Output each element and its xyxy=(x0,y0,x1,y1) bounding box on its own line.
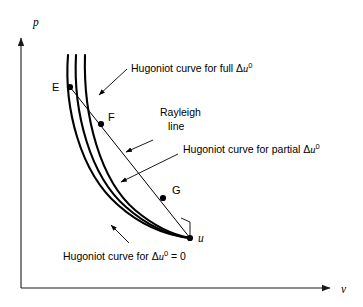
annotation-rayleigh-line1: Rayleigh xyxy=(160,106,201,118)
annotation-partial-text: Hugoniot curve for partial xyxy=(183,143,303,155)
annotation-zero-delta: Δ xyxy=(152,250,159,262)
point-label-u: u xyxy=(198,232,204,244)
annotation-zero: Hugoniot curve for Δu0 = 0 xyxy=(63,249,186,263)
leader-line-rayleigh xyxy=(126,140,153,152)
point-label-E: E xyxy=(52,81,59,93)
leader-line-full xyxy=(99,69,127,95)
annotation-partial-sup: 0 xyxy=(316,142,320,151)
annotation-full-delta: Δ xyxy=(236,62,243,74)
leader-line-partial xyxy=(121,154,178,182)
point-marker-u xyxy=(187,235,193,241)
leader-line-zero xyxy=(111,225,129,243)
point-marker-F xyxy=(98,121,104,127)
annotation-full: Hugoniot curve for full Δu0 xyxy=(131,61,253,75)
annotation-full-sup: 0 xyxy=(248,61,252,70)
point-marker-G xyxy=(160,195,166,201)
specific-volume-axis-label: v xyxy=(341,283,347,295)
annotation-partial: Hugoniot curve for partial Δu0 xyxy=(183,142,320,156)
annotation-zero-tail: = 0 xyxy=(168,250,186,262)
annotation-zero-text: Hugoniot curve for xyxy=(63,250,152,262)
annotation-partial-delta: Δ xyxy=(303,143,310,155)
point-label-G: G xyxy=(172,184,181,196)
annotation-rayleigh-line2: line xyxy=(168,120,185,132)
curves-group xyxy=(67,55,190,238)
point-marker-E xyxy=(67,84,73,90)
hugoniot-rayleigh-diagram: p v E F G u xyxy=(0,0,363,307)
bracket-top-tick xyxy=(181,218,190,222)
hugoniot-curve-partial xyxy=(76,55,190,238)
pressure-axis-label: p xyxy=(32,16,39,29)
annotation-full-text: Hugoniot curve for full xyxy=(131,62,236,74)
point-label-F: F xyxy=(108,111,115,123)
diagram-canvas: p v E F G u xyxy=(0,0,363,307)
